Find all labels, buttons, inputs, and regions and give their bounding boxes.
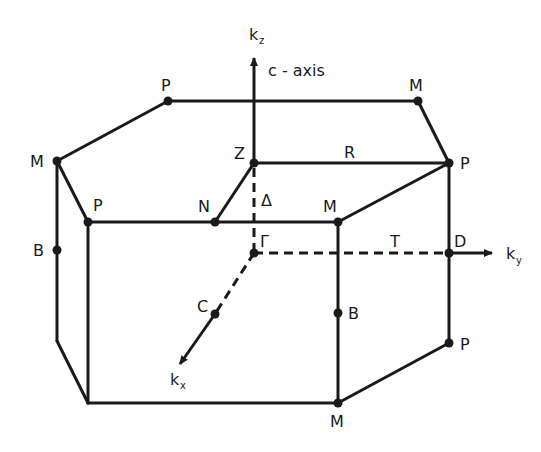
label-gamma: Γ — [260, 232, 269, 251]
point-p-front — [84, 218, 93, 227]
label-d: D — [454, 232, 466, 251]
point-b-left — [53, 246, 62, 255]
label-delta: Δ — [261, 191, 272, 210]
label-b-left: B — [33, 241, 44, 260]
label-c: C — [197, 297, 208, 316]
gamma-c-line — [215, 253, 254, 314]
point-p-lower — [445, 339, 454, 348]
label-kx: k — [170, 370, 180, 389]
label-b-right: B — [348, 304, 359, 323]
point-z — [250, 159, 259, 168]
point-b-right — [334, 309, 343, 318]
label-m-front: M — [323, 197, 337, 216]
label-p-right: P — [460, 154, 470, 173]
brillouin-zone-diagram: k z c - axis P M M Z R P P N Δ M B Γ T D… — [0, 0, 541, 452]
bottom-face — [57, 341, 449, 403]
label-ky-sub: y — [516, 255, 522, 266]
label-kz-sub: z — [259, 35, 264, 46]
label-c-axis: c - axis — [268, 61, 325, 80]
label-t: T — [389, 232, 400, 251]
label-kz: k — [249, 25, 259, 44]
point-m-top — [414, 97, 423, 106]
vertical-edges — [57, 161, 449, 403]
point-n — [211, 218, 220, 227]
point-gamma — [250, 249, 259, 258]
label-ky: k — [506, 244, 516, 263]
point-p-top — [164, 97, 173, 106]
point-m-left — [53, 157, 62, 166]
label-p-lower: P — [460, 335, 470, 354]
label-kx-sub: x — [180, 380, 186, 391]
label-m-bottom: M — [330, 412, 344, 431]
point-c — [211, 310, 220, 319]
point-d — [445, 249, 454, 258]
label-m-top: M — [409, 76, 423, 95]
point-m-bottom — [334, 399, 343, 408]
point-p-right — [445, 159, 454, 168]
label-p-top: P — [161, 76, 171, 95]
label-m-left: M — [30, 152, 44, 171]
label-z: Z — [234, 144, 245, 163]
label-p-front: P — [93, 196, 103, 215]
label-n: N — [198, 197, 210, 216]
kx-axis — [180, 314, 215, 364]
label-r: R — [344, 143, 355, 162]
point-m-front — [334, 218, 343, 227]
